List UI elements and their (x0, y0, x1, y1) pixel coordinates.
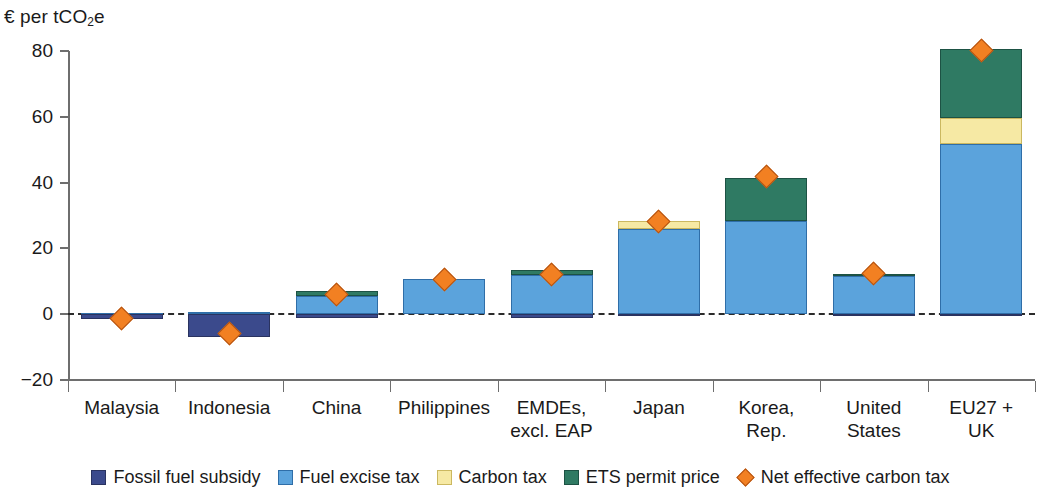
x-axis-label: EU27 +UK (928, 396, 1035, 442)
x-axis-label-line2: excl. EAP (498, 419, 605, 442)
x-axis-label-line2: UK (928, 419, 1035, 442)
legend-label: Fuel excise tax (300, 468, 420, 486)
bar-group[interactable] (833, 51, 915, 380)
x-axis-separator (1035, 381, 1036, 392)
x-axis-label: UnitedStates (820, 396, 927, 442)
x-axis-label-line1: Japan (633, 397, 685, 418)
x-axis-label: China (283, 396, 390, 419)
x-axis-label-line1: United (846, 397, 901, 418)
bar-group[interactable] (296, 51, 378, 380)
bar-segment-subsidy[interactable] (833, 314, 915, 316)
legend-swatch-icon (91, 470, 106, 485)
y-axis-tick-label: 20 (5, 238, 53, 257)
bar-segment-carbontax[interactable] (940, 118, 1022, 144)
legend-item[interactable]: ETS permit price (564, 468, 720, 486)
x-axis-separator (283, 381, 284, 392)
y-axis-title: € per tCO2e (4, 6, 105, 29)
y-axis-title-prefix: € per tCO (4, 6, 87, 27)
y-axis-tick-label: 80 (5, 41, 53, 60)
bar-group[interactable] (618, 51, 700, 380)
bar-segment-subsidy[interactable] (940, 314, 1022, 316)
legend-item[interactable]: Net effective carbon tax (737, 468, 950, 486)
y-axis-tick-label: −20 (5, 370, 53, 389)
x-axis-label-line1: EMDEs, (517, 397, 587, 418)
y-axis-tick-label: 60 (5, 107, 53, 126)
legend-item[interactable]: Carbon tax (437, 468, 547, 486)
bar-segment-excise[interactable] (618, 229, 700, 315)
x-axis-label: Korea,Rep. (713, 396, 820, 442)
legend-swatch-icon (564, 470, 579, 485)
legend-swatch-icon (437, 470, 452, 485)
x-axis-label: Japan (605, 396, 712, 419)
y-axis-tick-label: 0 (5, 304, 53, 323)
x-axis-label: EMDEs,excl. EAP (498, 396, 605, 442)
x-axis-label: Indonesia (175, 396, 282, 419)
bar-segment-subsidy[interactable] (618, 314, 700, 316)
bar-group[interactable] (188, 51, 270, 380)
x-axis-separator (820, 381, 821, 392)
x-axis-label-line1: China (312, 397, 362, 418)
legend-swatch-icon (278, 470, 293, 485)
y-axis-title-suffix: e (94, 6, 105, 27)
x-axis-label-line1: Philippines (398, 397, 490, 418)
x-axis-label-line2: Rep. (713, 419, 820, 442)
x-axis-separator (390, 381, 391, 392)
x-axis-label-line1: EU27 + (949, 397, 1013, 418)
net-effective-carbon-tax-marker[interactable] (110, 307, 134, 331)
x-axis-label-line1: Malaysia (84, 397, 159, 418)
legend-label: Fossil fuel subsidy (113, 468, 260, 486)
legend-label: ETS permit price (586, 468, 720, 486)
bar-group[interactable] (81, 51, 163, 380)
x-axis-label-line1: Indonesia (188, 397, 270, 418)
x-axis-label-line2: States (820, 419, 927, 442)
bar-group[interactable] (940, 51, 1022, 380)
y-axis-tick-label: 40 (5, 173, 53, 192)
legend-label: Net effective carbon tax (761, 468, 950, 486)
legend-label: Carbon tax (459, 468, 547, 486)
legend-item[interactable]: Fuel excise tax (278, 468, 420, 486)
bar-segment-excise[interactable] (940, 144, 1022, 314)
chart-legend: Fossil fuel subsidyFuel excise taxCarbon… (0, 468, 1041, 486)
x-axis-label-line1: Korea, (738, 397, 794, 418)
bar-group[interactable] (403, 51, 485, 380)
x-axis-separator (713, 381, 714, 392)
x-axis-separator (68, 381, 69, 392)
plot-area (68, 51, 1035, 380)
legend-item[interactable]: Fossil fuel subsidy (91, 468, 260, 486)
x-axis-separator (605, 381, 606, 392)
bar-group[interactable] (511, 51, 593, 380)
bar-segment-subsidy[interactable] (511, 314, 593, 318)
x-axis-separator (175, 381, 176, 392)
legend-diamond-icon (736, 468, 754, 486)
x-axis-label: Malaysia (68, 396, 175, 419)
carbon-pricing-chart: € per tCO2e −20020406080 MalaysiaIndones… (0, 0, 1041, 497)
bar-segment-subsidy[interactable] (296, 314, 378, 318)
x-axis-separator (928, 381, 929, 392)
bar-segment-excise[interactable] (725, 221, 807, 314)
x-axis-label: Philippines (390, 396, 497, 419)
x-axis-separator (498, 381, 499, 392)
bar-group[interactable] (725, 51, 807, 380)
